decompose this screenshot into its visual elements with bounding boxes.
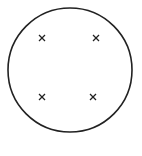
diagram-canvas (0, 0, 142, 156)
cross-mark-icon (93, 35, 99, 41)
circle-boundary (8, 8, 132, 132)
cross-mark-icon (90, 94, 96, 100)
cross-marks (39, 35, 99, 100)
cross-mark-icon (39, 35, 45, 41)
cross-mark-icon (39, 94, 45, 100)
